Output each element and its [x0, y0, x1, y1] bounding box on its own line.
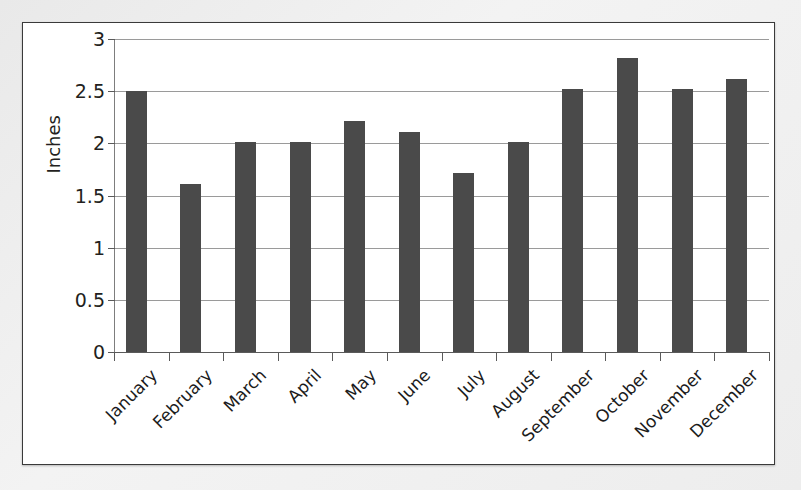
y-axis-tick-label: 0 — [93, 341, 105, 363]
x-axis-label: July — [453, 365, 489, 401]
x-axis-tick — [442, 352, 443, 361]
x-axis-tick — [169, 352, 170, 361]
x-axis-label: March — [220, 365, 271, 416]
x-axis-tick — [496, 352, 497, 361]
bar — [726, 79, 747, 352]
x-axis-label: May — [341, 365, 380, 404]
y-axis-tick-label: 1.5 — [75, 185, 105, 207]
y-axis-tick-label: 1 — [93, 237, 105, 259]
x-axis-label: February — [149, 365, 216, 432]
chart-figure-frame: Inches 00.511.522.53 JanuaryFebruaryMarc… — [22, 22, 775, 465]
x-axis-label: June — [394, 365, 434, 405]
y-axis-tick — [108, 143, 115, 144]
x-axis-tick — [660, 352, 661, 361]
y-axis-tick — [108, 196, 115, 197]
x-axis-line — [114, 352, 769, 353]
bar — [453, 173, 474, 352]
y-axis-tick — [108, 39, 115, 40]
x-axis-tick — [114, 352, 115, 361]
y-axis-title: Inches — [43, 134, 64, 174]
x-axis-label: April — [284, 365, 326, 407]
x-axis-tick — [769, 352, 770, 361]
y-axis-tick-label: 2 — [93, 132, 105, 154]
y-axis-tick — [108, 91, 115, 92]
bar — [180, 184, 201, 352]
x-axis-tick — [278, 352, 279, 361]
y-axis-tick-label: 2.5 — [75, 80, 105, 102]
bar — [399, 132, 420, 352]
bar — [617, 58, 638, 352]
x-axis-tick — [714, 352, 715, 361]
y-axis-tick — [108, 300, 115, 301]
bar — [562, 89, 583, 352]
x-axis-tick — [332, 352, 333, 361]
screenshot-root: Inches 00.511.522.53 JanuaryFebruaryMarc… — [0, 0, 801, 490]
bar — [290, 142, 311, 352]
bar — [672, 89, 693, 352]
x-axis-tick — [223, 352, 224, 361]
gridline — [114, 39, 769, 40]
bar — [508, 142, 529, 352]
y-axis-tick — [108, 248, 115, 249]
y-axis-tick-label: 0.5 — [75, 289, 105, 311]
x-axis-tick — [387, 352, 388, 361]
bar — [344, 121, 365, 352]
y-axis-tick-label: 3 — [93, 28, 105, 50]
bar — [235, 142, 256, 352]
x-axis-tick — [605, 352, 606, 361]
plot-area: 00.511.522.53 JanuaryFebruaryMarchAprilM… — [114, 39, 769, 352]
x-axis-tick — [551, 352, 552, 361]
bar — [126, 91, 147, 352]
